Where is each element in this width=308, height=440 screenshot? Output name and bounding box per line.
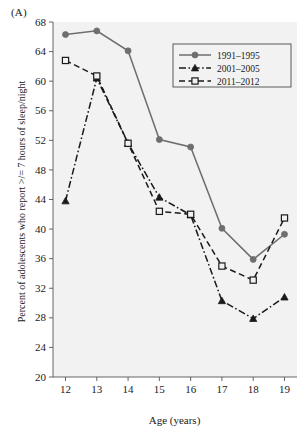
x-tick-label: 12 [60,383,71,395]
data-point-marker [281,215,287,221]
y-tick-label: 44 [35,193,47,205]
y-tick-label: 68 [35,16,47,28]
legend-label: 2011–2012 [217,77,260,87]
y-axis-ticks: 20242832364044485256606468 [35,16,53,383]
line-chart: 20242832364044485256606468 1213141516171… [0,0,308,440]
x-axis-label: Age (years) [47,414,302,426]
y-tick-label: 20 [35,371,47,383]
data-point-marker [125,48,131,54]
legend-label: 1991–1995 [217,51,260,61]
x-tick-label: 15 [154,383,166,395]
legend-marker [192,52,198,58]
y-axis-label: Percent of adolescents who report >/= 7 … [16,52,27,352]
data-point-marker [94,28,100,34]
legend-label: 2001–2005 [217,64,260,74]
y-tick-label: 52 [35,134,46,146]
x-tick-label: 19 [279,383,291,395]
x-tick-label: 16 [185,383,197,395]
y-tick-label: 48 [35,164,47,176]
data-point-marker [94,73,100,79]
y-tick-label: 32 [35,282,46,294]
y-tick-label: 64 [35,45,47,57]
data-point-marker [219,225,225,231]
y-tick-label: 56 [35,104,47,116]
data-point-marker [250,277,256,283]
x-tick-label: 14 [123,383,135,395]
x-tick-label: 13 [91,383,103,395]
data-point-marker [188,144,194,150]
data-point-marker [62,57,68,63]
legend-marker [192,78,198,84]
data-point-marker [188,211,194,217]
y-tick-label: 60 [35,75,47,87]
data-point-marker [156,137,162,143]
data-point-marker [219,263,225,269]
y-tick-label: 24 [35,341,47,353]
panel-label: (A) [11,6,27,18]
figure-panel-a: (A) Percent of adolescents who report >/… [0,0,308,440]
x-tick-label: 17 [216,383,228,395]
data-point-marker [156,208,162,214]
data-point-marker [125,140,131,146]
data-point-marker [63,32,69,38]
data-point-marker [281,231,287,237]
chart-legend: 1991–19952001–20052011–2012 [173,44,291,87]
x-axis-ticks: 1213141516171819 [60,377,290,395]
y-tick-label: 36 [35,252,47,264]
data-point-marker [250,256,256,262]
y-tick-label: 40 [35,223,47,235]
x-tick-label: 18 [248,383,260,395]
y-tick-label: 28 [35,311,47,323]
